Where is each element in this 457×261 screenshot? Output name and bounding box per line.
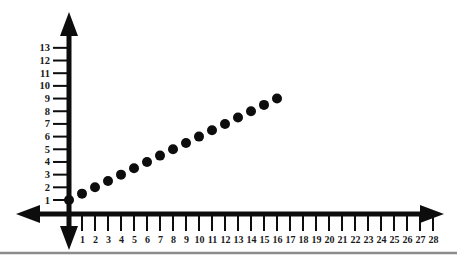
x-tick-label: 13 — [234, 234, 244, 245]
x-tick-label: 26 — [403, 234, 413, 245]
y-tick-label: 8 — [45, 106, 50, 117]
y-tick-label: 1 — [45, 195, 50, 206]
data-point — [194, 132, 204, 142]
y-tick-label: 2 — [45, 182, 50, 193]
y-tick-label: 10 — [40, 80, 51, 91]
x-tick-label: 16 — [273, 234, 283, 245]
data-point-group — [64, 94, 282, 205]
x-tick-label: 27 — [416, 234, 426, 245]
y-tick-label: 11 — [40, 68, 50, 79]
y-tick-label: 6 — [45, 131, 50, 142]
data-point — [142, 157, 152, 167]
x-axis-left-arrow-icon — [16, 205, 40, 223]
data-point — [90, 182, 100, 192]
x-tick-label: 20 — [325, 234, 335, 245]
y-tick-label: 7 — [45, 118, 50, 129]
data-point — [103, 176, 113, 186]
x-tick-label: 19 — [312, 234, 322, 245]
x-tick-label: 14 — [247, 234, 257, 245]
x-tick-label: 18 — [299, 234, 309, 245]
x-tick-label: 9 — [184, 234, 189, 245]
y-tick-label: 3 — [45, 169, 50, 180]
x-axis-ticks: 1234567891011121314151617181920212223242… — [80, 214, 439, 245]
scatter-chart: 12345678910111213 1234567891011121314151… — [0, 0, 457, 261]
x-tick-label: 2 — [93, 234, 98, 245]
x-tick-label: 25 — [390, 234, 400, 245]
y-axis-down-arrow-icon — [60, 226, 78, 250]
data-point — [259, 100, 269, 110]
data-point — [64, 195, 74, 205]
y-axis-ticks: 12345678910111213 — [40, 42, 70, 205]
x-tick-label: 15 — [260, 234, 270, 245]
x-tick-label: 17 — [286, 234, 296, 245]
x-tick-label: 10 — [195, 234, 205, 245]
data-point — [233, 113, 243, 123]
x-tick-label: 24 — [377, 234, 387, 245]
data-point — [168, 144, 178, 154]
y-tick-label: 9 — [45, 93, 50, 104]
x-tick-label: 11 — [208, 234, 217, 245]
x-tick-label: 22 — [351, 234, 361, 245]
x-tick-label: 28 — [429, 234, 439, 245]
x-tick-label: 8 — [171, 234, 176, 245]
x-tick-label: 5 — [132, 234, 137, 245]
y-tick-label: 13 — [40, 42, 51, 53]
x-tick-label: 21 — [338, 234, 348, 245]
data-point — [155, 151, 165, 161]
data-point — [220, 119, 230, 129]
x-tick-label: 4 — [119, 234, 124, 245]
data-point — [181, 138, 191, 148]
data-point — [129, 163, 139, 173]
x-tick-label: 1 — [80, 234, 85, 245]
data-point — [272, 94, 282, 104]
x-tick-label: 12 — [221, 234, 231, 245]
x-axis — [16, 205, 444, 223]
x-tick-label: 6 — [145, 234, 150, 245]
x-tick-label: 23 — [364, 234, 374, 245]
data-point — [246, 106, 256, 116]
data-point — [116, 170, 126, 180]
y-tick-label: 5 — [45, 144, 50, 155]
data-point — [207, 125, 217, 135]
y-axis-up-arrow-icon — [60, 12, 78, 36]
y-tick-label: 4 — [45, 156, 51, 167]
y-tick-label: 12 — [40, 55, 51, 66]
x-tick-label: 7 — [158, 234, 163, 245]
data-point — [77, 189, 87, 199]
chart-canvas: 12345678910111213 1234567891011121314151… — [0, 0, 457, 261]
x-tick-label: 3 — [106, 234, 111, 245]
